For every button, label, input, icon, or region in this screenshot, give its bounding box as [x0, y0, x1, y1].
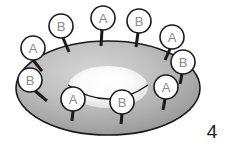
marker-outer-2[interactable]: B — [49, 14, 73, 38]
marker-stem — [101, 30, 102, 46]
marker-outer-1[interactable]: A — [21, 36, 45, 60]
marker-outer-3[interactable]: A — [91, 6, 115, 30]
marker-stem — [121, 114, 122, 124]
marker-label: B — [179, 55, 188, 70]
marker-label: B — [135, 14, 144, 29]
marker-outer-8[interactable]: B — [18, 68, 42, 92]
marker-inner-2[interactable]: B — [110, 90, 134, 114]
figure-container: A B A B A B A — [0, 0, 234, 159]
marker-outer-5[interactable]: A — [160, 25, 184, 49]
marker-label: A — [99, 11, 108, 26]
marker-label: A — [162, 80, 171, 95]
torus-diagram: A B A B A B A — [0, 0, 234, 159]
marker-stem — [163, 99, 165, 110]
marker-outer-6[interactable]: B — [171, 50, 195, 74]
marker-label: A — [168, 30, 177, 45]
marker-label: A — [29, 41, 38, 56]
marker-outer-7[interactable]: A — [154, 75, 178, 99]
marker-label: B — [57, 19, 66, 34]
figure-number: 4 — [207, 121, 218, 142]
marker-stem — [72, 111, 73, 121]
marker-inner-1[interactable]: A — [61, 87, 85, 111]
marker-label: A — [69, 92, 78, 107]
marker-outer-4[interactable]: B — [127, 9, 151, 33]
marker-stem — [136, 33, 138, 47]
marker-label: B — [26, 73, 35, 88]
marker-label: B — [118, 95, 127, 110]
marker-stem — [180, 74, 182, 84]
